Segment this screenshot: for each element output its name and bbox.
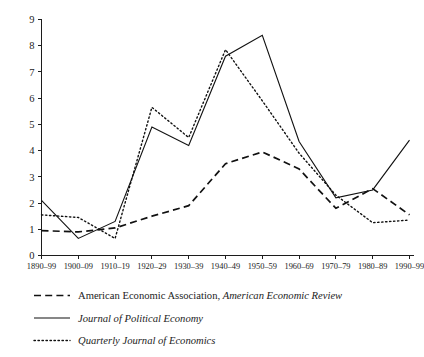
x-axis-tick-label: 1940–49	[211, 262, 240, 271]
x-axis-tick-label: 1950–59	[248, 262, 277, 271]
x-axis-tick-label: 1960–69	[284, 262, 313, 271]
y-axis-tick-label: 5	[29, 119, 34, 130]
y-axis-tick-label: 4	[29, 145, 35, 156]
x-axis-tick-label: 1980–89	[358, 262, 387, 271]
legend-entry-label: Quarterly Journal of Economics	[78, 335, 215, 346]
y-axis-tick-label: 2	[29, 198, 34, 209]
line-chart-canvas: 0123456789 1890–991900–091910–191920–291…	[0, 0, 424, 357]
y-axis-tick-label: 8	[29, 40, 34, 51]
x-axis-tick-label: 1970–79	[321, 262, 350, 271]
y-axis-tick-label: 0	[29, 250, 34, 261]
y-axis-tick-label: 6	[29, 93, 34, 104]
y-axis: 0123456789	[29, 14, 41, 261]
chart-legend: American Economic Association, American …	[34, 290, 342, 346]
x-axis-tick-label: 1900–09	[64, 262, 93, 271]
y-axis-tick-label: 3	[29, 172, 34, 183]
series-lines	[42, 35, 410, 238]
x-axis-tick-label: 1920–29	[137, 262, 166, 271]
x-axis-tick-label: 1930–39	[174, 262, 203, 271]
series-line-solid	[42, 35, 410, 238]
x-axis-tick-label: 1990–99	[395, 262, 424, 271]
x-axis: 1890–991900–091910–191920–291930–391940–…	[27, 256, 424, 272]
x-axis-tick-label: 1890–99	[27, 262, 56, 271]
series-line-dotted	[42, 50, 410, 239]
legend-entry-label: American Economic Association, American …	[78, 290, 342, 301]
y-axis-tick-label: 1	[29, 224, 34, 235]
y-axis-tick-label: 9	[29, 14, 34, 25]
y-axis-tick-label: 7	[29, 67, 34, 78]
series-line-dashed	[42, 152, 410, 232]
chart-figure: 0123456789 1890–991900–091910–191920–291…	[0, 0, 424, 357]
x-axis-tick-label: 1910–19	[100, 262, 129, 271]
legend-entry-label: Journal of Political Economy	[78, 313, 203, 324]
